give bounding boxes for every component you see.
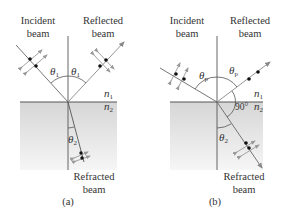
reflected-beam-label-a: Reflectedbeam — [83, 15, 124, 39]
medium-n2-region — [170, 102, 263, 170]
reflected-polarization-icon — [94, 52, 114, 72]
incident-polarization-icon — [22, 50, 47, 72]
incident-beam-label-a: Incidentbeam — [21, 15, 55, 39]
reflected-beam-label-b: Reflectedbeam — [230, 15, 271, 39]
right-angle-label: 90° — [235, 102, 249, 112]
thetap-reflected-label: θp — [229, 64, 238, 78]
reflected-polarization-icon — [247, 70, 260, 81]
incident-beam-label-b: Incidentbeam — [170, 15, 204, 39]
incident-ray — [16, 45, 68, 102]
panel-a: Incidentbeam Reflectedbeam Refractedbeam… — [16, 15, 124, 208]
incident-ray — [160, 68, 217, 102]
thetap-reflected-arc — [217, 77, 237, 87]
caption-a: (a) — [62, 196, 74, 208]
n1-label-a: n1 — [104, 87, 114, 101]
caption-b: (b) — [209, 196, 222, 208]
n1-label-b: n1 — [254, 87, 264, 101]
thetap-incident-label: θp — [199, 69, 208, 83]
theta1-reflected-label: θ1 — [71, 65, 80, 79]
polarization-diagram: Incidentbeam Reflectedbeam Refractedbeam… — [0, 0, 284, 218]
refracted-beam-label-b: Refractedbeam — [224, 171, 266, 195]
incident-polarization-icon — [171, 63, 188, 86]
theta1-incident-label: θ1 — [50, 65, 59, 79]
refracted-beam-label-a: Refractedbeam — [74, 171, 116, 195]
theta1-incident-arc — [51, 76, 68, 83]
panel-b: Incidentbeam Reflectedbeam Refractedbeam… — [160, 15, 271, 208]
